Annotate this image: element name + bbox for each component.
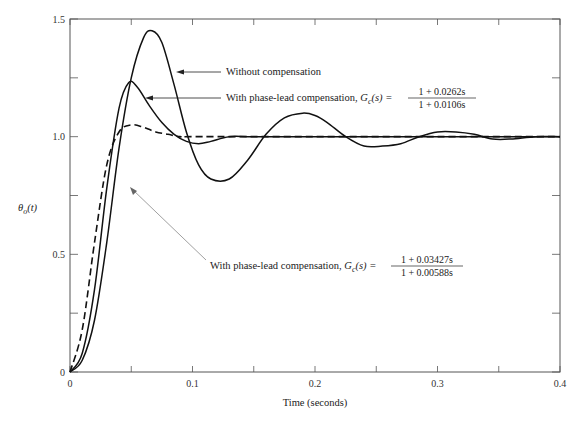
fraction-numerator: 1 + 0.0262s: [418, 86, 465, 97]
annotation-label: With phase-lead compensation, Gc(s) =: [210, 260, 376, 274]
curve-phase-lead-2: [70, 125, 560, 372]
annotation-label: Without compensation: [226, 66, 322, 77]
fraction-denominator: 1 + 0.0106s: [418, 99, 465, 110]
fraction-denominator: 1 + 0.00588s: [401, 267, 453, 278]
step-response-chart: 00.10.20.30.400.51.01.5 θo(t) Time (seco…: [0, 0, 583, 425]
x-tick-label: 0.3: [431, 378, 444, 389]
leader-line: [132, 189, 206, 260]
annotation-phase-lead-2: With phase-lead compensation, Gc(s) = 1 …: [130, 187, 463, 278]
y-tick-label: 0.5: [53, 249, 66, 260]
x-tick-label: 0.4: [554, 378, 567, 389]
annotation-without-compensation: Without compensation: [176, 66, 322, 77]
plot-curves: [70, 30, 560, 372]
fraction-numerator: 1 + 0.03427s: [401, 254, 453, 265]
curve-phase-lead-1: [70, 81, 560, 372]
x-tick-label: 0: [68, 378, 73, 389]
y-tick-label: 1.5: [53, 14, 66, 25]
x-tick-label: 0.1: [186, 378, 199, 389]
x-axis-label: Time (seconds): [283, 397, 348, 409]
curve-without-compensation: [70, 30, 560, 372]
annotation-phase-lead-1: With phase-lead compensation, Gc(s) = 1 …: [145, 86, 476, 110]
x-tick-label: 0.2: [309, 378, 322, 389]
y-tick-label: 0: [60, 367, 65, 378]
y-axis-label: θo(t): [18, 202, 38, 216]
annotation-label: With phase-lead compensation, Gc(s) =: [226, 92, 392, 106]
arrowhead-icon: [130, 187, 137, 195]
y-tick-label: 1.0: [53, 131, 66, 142]
arrowhead-icon: [176, 70, 184, 75]
